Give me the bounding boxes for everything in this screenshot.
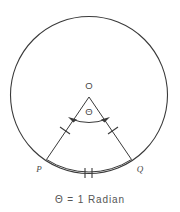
radian-diagram-svg: O Θ P Q Θ = 1 Radian — [0, 0, 180, 212]
radius-op-line — [47, 97, 90, 160]
main-circle — [11, 17, 168, 174]
arc-pq-path — [47, 160, 132, 173]
radius-oq-line — [89, 97, 132, 160]
center-point-label: O — [85, 80, 93, 91]
point-p-label: P — [35, 164, 42, 174]
figure-caption: Θ = 1 Radian — [55, 194, 125, 205]
point-q-label: Q — [137, 164, 144, 174]
radian-diagram-figure: O Θ P Q Θ = 1 Radian — [0, 0, 180, 212]
angle-theta-label: Θ — [85, 106, 92, 117]
